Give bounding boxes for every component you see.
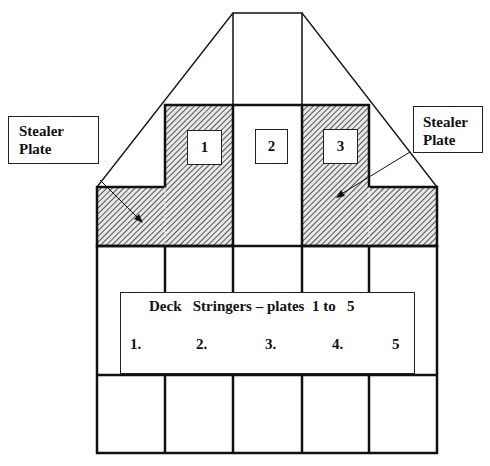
stringer-number-5: 5 (392, 336, 400, 353)
stringer-number-1: 1. (130, 336, 141, 353)
stringer-number-2: 2. (196, 336, 207, 353)
stringer-number-4: 4. (332, 336, 343, 353)
stealer-plate-callout-left: Stealer Plate (8, 116, 99, 164)
center-strake-top (233, 13, 302, 105)
center-strake-mid (233, 105, 302, 246)
plate-number-2: 2 (255, 129, 288, 164)
stringer-number-3: 3. (265, 336, 276, 353)
stringer-caption-title: Deck Stringers – plates 1 to 5 (149, 298, 354, 315)
deck-plating-diagram (0, 0, 490, 466)
stealer-plate-callout-right: Stealer Plate (413, 106, 483, 153)
plate-number-3: 3 (323, 129, 358, 164)
plate-number-1: 1 (187, 130, 222, 165)
